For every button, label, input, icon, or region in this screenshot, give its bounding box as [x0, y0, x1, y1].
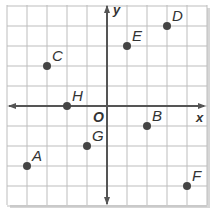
point-label: E: [132, 27, 143, 44]
point-label: D: [172, 7, 183, 24]
point-label: G: [92, 127, 104, 144]
point-marker: [163, 22, 171, 30]
point-label: B: [152, 107, 162, 124]
point-marker: [43, 62, 51, 70]
point-label: C: [52, 47, 63, 64]
point-marker: [23, 162, 31, 170]
point-marker: [183, 182, 191, 190]
point-label: H: [72, 87, 83, 104]
y-axis-label: y: [112, 2, 121, 17]
point-marker: [143, 122, 151, 130]
point-label: F: [192, 167, 202, 184]
coordinate-plane: x y O ABCDEFGH: [0, 0, 218, 222]
point-label: A: [31, 147, 42, 164]
origin-label: O: [93, 109, 104, 125]
point-marker: [63, 102, 71, 110]
x-axis-label: x: [195, 110, 204, 125]
point-marker: [83, 142, 91, 150]
point-marker: [123, 42, 131, 50]
